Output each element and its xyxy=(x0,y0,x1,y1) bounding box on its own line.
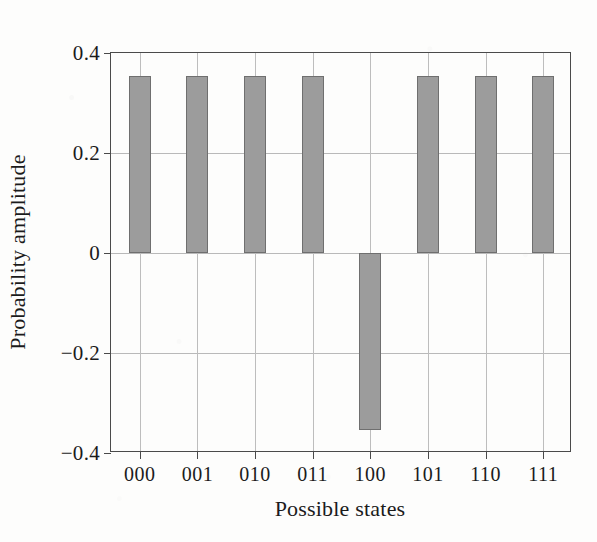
chart-figure: Probability amplitude 0.40.20−0.2−0.4 00… xyxy=(0,0,597,542)
bar xyxy=(475,76,497,253)
y-axis-title: Probability amplitude xyxy=(5,154,31,349)
x-tick-mark xyxy=(370,451,371,459)
gridline-horizontal xyxy=(111,153,570,154)
plot-area: 0.40.20−0.2−0.4 000001010011100101110111 xyxy=(110,52,571,452)
y-tick-label: 0.2 xyxy=(73,141,100,166)
x-tick-label: 010 xyxy=(239,463,271,486)
y-tick-mark xyxy=(104,153,111,154)
y-tick-label: −0.2 xyxy=(61,341,100,366)
y-tick-label: 0 xyxy=(89,241,100,266)
y-tick-mark xyxy=(104,53,111,54)
bar xyxy=(129,76,151,253)
x-tick-label: 111 xyxy=(528,463,558,486)
x-tick-label: 101 xyxy=(412,463,444,486)
x-tick-mark xyxy=(313,451,314,459)
bar xyxy=(244,76,266,253)
x-tick-mark xyxy=(197,451,198,459)
bar xyxy=(359,253,381,430)
x-tick-label: 011 xyxy=(297,463,328,486)
gridline-horizontal xyxy=(111,253,570,254)
x-tick-mark xyxy=(486,451,487,459)
x-axis-title: Possible states xyxy=(275,496,406,522)
bar xyxy=(186,76,208,253)
y-tick-label: −0.4 xyxy=(61,441,100,466)
x-tick-mark xyxy=(140,451,141,459)
y-tick-mark xyxy=(104,253,111,254)
x-tick-mark xyxy=(255,451,256,459)
x-tick-label: 100 xyxy=(355,463,387,486)
bar xyxy=(302,76,324,253)
y-tick-label: 0.4 xyxy=(73,41,100,66)
gridline-horizontal xyxy=(111,353,570,354)
bar xyxy=(532,76,554,253)
bar xyxy=(417,76,439,253)
y-tick-mark xyxy=(104,353,111,354)
x-tick-mark xyxy=(543,451,544,459)
x-tick-mark xyxy=(428,451,429,459)
y-tick-mark xyxy=(104,453,111,454)
x-tick-label: 110 xyxy=(470,463,501,486)
x-tick-label: 001 xyxy=(182,463,214,486)
x-tick-label: 000 xyxy=(124,463,156,486)
